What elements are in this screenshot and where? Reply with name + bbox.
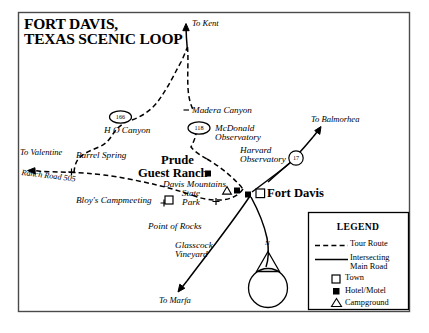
map-graphics-layer (0, 0, 429, 333)
label-bloys-campmeeting: Bloy's Campmeeting (76, 196, 152, 206)
symbol-town-fort-davis (256, 189, 265, 198)
label-prude-guest-ranch-line2: Guest Ranch (138, 167, 208, 180)
label-point-of-rocks: Point of Rocks (148, 222, 202, 232)
label-to-marfa: To Marfa (159, 296, 191, 305)
label-harvard-observatory-line2: Observatory (240, 155, 286, 165)
label-fort-davis: Fort Davis (267, 187, 324, 200)
label-madera-canyon: Madera Canyon (192, 106, 252, 116)
legend-label-hotel-motel: Hotel/Motel (345, 287, 386, 296)
shield-label-17: 17 (288, 155, 304, 161)
label-to-kent: To Kent (192, 19, 219, 28)
legend-swatch-filled-square (333, 288, 340, 295)
label-mcdonald-observatory-line2: Observatory (215, 133, 261, 143)
legend-title: LEGEND (308, 222, 408, 232)
legend-label-town: Town (345, 274, 364, 283)
legend-swatch-open-square (332, 275, 340, 283)
map-canvas: FORT DAVIS, TEXAS SCENIC LOOP To Kent To… (0, 0, 429, 333)
legend-label-campground: Campground (345, 299, 389, 308)
label-to-valentine: To Valentine (20, 148, 62, 157)
legend-label-tour-route: Tour Route (350, 240, 388, 249)
symbol-hotel-state-park (234, 188, 240, 194)
label-to-balmorhea: To Balmorhea (311, 115, 359, 124)
legend-label-intersecting-main-road-line2: Main Road (350, 263, 387, 272)
shield-label-118: 118 (189, 125, 210, 131)
label-glasscock-vineyard-line2: Vineyard (175, 250, 208, 260)
symbol-hotel-fort-davis (245, 192, 251, 198)
compass-north-label: N (265, 240, 270, 247)
label-davis-mountains-state-park-line3: Park (163, 198, 219, 208)
map-title-line2: TEXAS SCENIC LOOP (24, 31, 183, 47)
shield-label-166: 166 (110, 114, 131, 120)
label-barrel-spring: Barrel Spring (76, 151, 126, 161)
label-ho-canyon: H O Canyon (104, 126, 150, 136)
